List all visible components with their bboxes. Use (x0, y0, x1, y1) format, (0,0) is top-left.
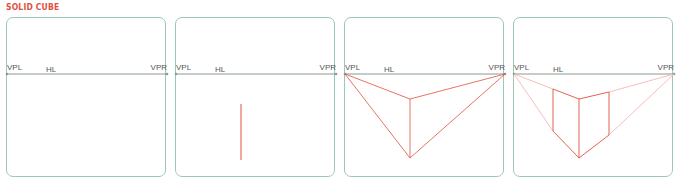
hl-label: HL (46, 65, 57, 74)
panel-step-3: VPL HL VPR (344, 17, 504, 177)
hl-label: HL (215, 65, 226, 74)
vpr-point (166, 73, 169, 76)
vpl-label: VPL (176, 63, 192, 72)
vpr-label: VPR (658, 63, 675, 72)
cube-edges (553, 89, 609, 158)
vpr-label: VPR (151, 63, 168, 72)
perspective-lines (345, 74, 505, 158)
diagram-title: SOLID CUBE (6, 2, 59, 12)
panel-step-4: VPL HL VPR (513, 17, 673, 177)
vpl-label: VPL (7, 63, 23, 72)
panel-step-2: VPL HL VPR (175, 17, 335, 177)
vpl-label: VPL (345, 63, 361, 72)
hl-label: HL (384, 65, 395, 74)
vpr-label: VPR (320, 63, 337, 72)
hl-label: HL (553, 65, 564, 74)
panel-step-1: VPL HL VPR (6, 17, 166, 177)
vpl-label: VPL (514, 63, 530, 72)
vpl-point (6, 73, 9, 76)
construction-lines (514, 74, 674, 135)
vpr-label: VPR (489, 63, 506, 72)
